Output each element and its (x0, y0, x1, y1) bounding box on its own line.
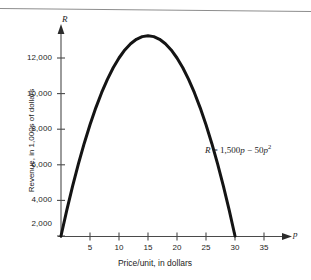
equation-operator: − (247, 145, 252, 155)
revenue-parabola-figure: 12,000 10,000 8,000 6,000 4,000 2,000 5 … (0, 0, 311, 280)
x-axis-arrowhead (282, 233, 292, 240)
y-tick-label-12000: 12,000 (4, 53, 52, 62)
equation-lhs: R (205, 145, 211, 155)
x-tick-label-15: 15 (136, 243, 160, 252)
x-tick-label-35: 35 (252, 243, 276, 252)
revenue-curve (61, 36, 235, 236)
x-tick-label-10: 10 (107, 243, 131, 252)
equation-term1-variable: p (240, 145, 245, 155)
y-axis-title: Revenue, in 1,000s of dollars (27, 66, 36, 216)
equation-term2-exponent: 2 (268, 143, 271, 150)
plot-area (0, 0, 311, 280)
equation-term1-coefficient: 1,500 (220, 145, 240, 155)
x-tick-label-20: 20 (165, 243, 189, 252)
equation-equals: = (213, 145, 218, 155)
x-tick-label-30: 30 (223, 243, 247, 252)
x-tick-label-25: 25 (194, 243, 218, 252)
x-axis-variable-label: p (293, 229, 298, 239)
x-axis-title: Price/unit, in dollars (60, 258, 250, 268)
y-axis-arrowhead (58, 24, 65, 34)
x-tick-label-5: 5 (78, 243, 102, 252)
y-tick-label-2000: 2,000 (4, 219, 52, 228)
y-axis-variable-label: R (62, 14, 68, 24)
equation-annotation: R = 1,500p − 50p2 (205, 143, 271, 155)
